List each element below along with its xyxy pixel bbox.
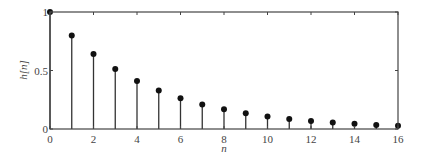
x-tick-label: 16: [393, 133, 405, 145]
stem-series: [47, 9, 401, 129]
y-tick-label: 1: [43, 6, 49, 18]
x-tick-label: 4: [134, 133, 140, 145]
stem-point: [178, 95, 184, 129]
x-axis-label: n: [221, 142, 227, 154]
y-axis-label: h[n]: [17, 60, 29, 80]
stem-point: [373, 122, 379, 129]
axis-ticks: 024681012141600.51: [34, 6, 404, 145]
y-tick-label: 0: [43, 123, 49, 135]
stem-point: [199, 101, 205, 129]
stem-point: [91, 51, 97, 129]
stem-point: [330, 120, 336, 129]
stem-point: [156, 88, 162, 129]
stem-point: [69, 32, 75, 129]
x-tick-label: 6: [178, 133, 184, 145]
x-tick-label: 14: [349, 133, 361, 145]
stem-point: [134, 78, 140, 129]
y-tick-label: 0.5: [34, 65, 48, 77]
x-tick-label: 2: [91, 133, 97, 145]
x-tick-label: 12: [306, 133, 317, 145]
stem-point: [286, 116, 292, 129]
stem-plot: 024681012141600.51 n h[n]: [0, 0, 422, 160]
stem-point: [112, 66, 118, 129]
x-tick-label: 10: [262, 133, 274, 145]
stem-point: [243, 110, 249, 129]
stem-point: [221, 106, 227, 129]
x-tick-label: 0: [47, 133, 53, 145]
